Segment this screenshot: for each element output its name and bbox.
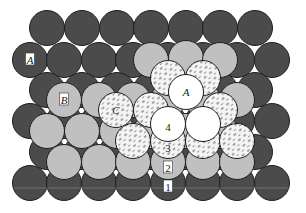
layer-1-sphere bbox=[134, 11, 169, 46]
sphere-packing-svg: ABCA4321 bbox=[0, 0, 306, 213]
layer-3-sphere bbox=[116, 124, 151, 159]
layer-1-sphere bbox=[255, 166, 290, 201]
layer-2-sphere bbox=[65, 114, 100, 149]
label-site-b: B bbox=[61, 94, 68, 106]
layer-3-sphere bbox=[220, 124, 255, 159]
layer-2-sphere bbox=[82, 145, 117, 180]
layer-1-sphere bbox=[238, 11, 273, 46]
layer-1-sphere bbox=[255, 43, 290, 78]
layer-1-sphere bbox=[13, 166, 48, 201]
layer-1-sphere bbox=[65, 11, 100, 46]
layer-1-sphere bbox=[100, 11, 135, 46]
layer-1-sphere bbox=[255, 104, 290, 139]
layer-1-sphere bbox=[47, 43, 82, 78]
layer-2-sphere bbox=[30, 114, 65, 149]
layer-1-sphere bbox=[203, 11, 238, 46]
label-site-a-bottom: A bbox=[26, 54, 34, 66]
layer-2-sphere bbox=[47, 145, 82, 180]
label-layer-4: 4 bbox=[165, 121, 171, 133]
label-site-a-top: A bbox=[182, 86, 190, 98]
label-site-c: C bbox=[112, 104, 120, 116]
layer-1-sphere bbox=[82, 43, 117, 78]
close-packed-layers-diagram: ABCA4321 A B C A 1 2 3 4 bbox=[0, 0, 306, 213]
label-layer-2: 2 bbox=[165, 162, 171, 174]
label-layer-1: 1 bbox=[165, 181, 171, 193]
label-layer-3: 3 bbox=[165, 142, 171, 154]
layer-4-sphere bbox=[186, 107, 221, 142]
layer-1-sphere bbox=[30, 11, 65, 46]
